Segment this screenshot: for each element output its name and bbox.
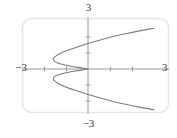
x-axis-max-label: 3 — [162, 62, 176, 73]
x-axis-min-label: −3 — [3, 62, 27, 73]
y-axis-min-label: −3 — [0, 118, 177, 129]
y-axis-max-label: 3 — [0, 2, 177, 13]
graph-plot: 3 −3 −3 3 — [0, 0, 177, 138]
plot-frame — [23, 19, 169, 113]
